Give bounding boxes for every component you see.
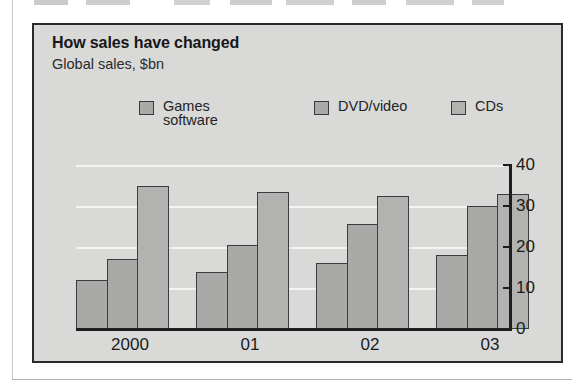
chart-title: How sales have changed	[52, 34, 239, 52]
legend-swatch-icon	[139, 101, 154, 115]
legend-item[interactable]: Games software	[139, 99, 218, 127]
chart-legend: Games softwareDVD/videoCDs	[139, 99, 539, 143]
bar[interactable]	[257, 192, 289, 329]
chart-subtitle: Global sales, $bn	[52, 56, 164, 72]
x-axis-tick-label: 02	[316, 336, 424, 353]
y-axis-tick-label: 30	[516, 197, 535, 214]
bar[interactable]	[76, 280, 108, 329]
y-axis-tick	[503, 328, 512, 330]
x-axis-line	[76, 328, 512, 331]
chart-panel: How sales have changed Global sales, $bn…	[32, 23, 563, 363]
y-axis-tick-label: 10	[516, 279, 535, 296]
y-axis-line	[509, 165, 512, 331]
bar-group	[76, 165, 184, 329]
legend-item[interactable]: DVD/video	[314, 99, 407, 115]
bar-group	[196, 165, 304, 329]
page-horizontal-rule	[12, 379, 572, 380]
x-axis-tick-label: 01	[196, 336, 304, 353]
y-axis-tick-label: 40	[516, 156, 535, 173]
y-axis-tick	[503, 164, 512, 166]
bar[interactable]	[467, 206, 499, 329]
bar[interactable]	[196, 272, 228, 329]
legend-label: CDs	[475, 99, 503, 113]
bar[interactable]	[436, 255, 468, 329]
legend-swatch-icon	[314, 101, 329, 115]
bar-group	[316, 165, 424, 329]
bar[interactable]	[347, 224, 379, 329]
bars-layer	[76, 165, 504, 329]
y-axis-tick-label: 20	[516, 238, 535, 255]
y-axis-tick-label: 0	[516, 320, 525, 337]
plot-area	[76, 165, 504, 329]
page-edge-line	[12, 0, 13, 380]
bar[interactable]	[316, 263, 348, 329]
y-axis-tick	[503, 287, 512, 289]
bar[interactable]	[107, 259, 139, 329]
cropped-text-line-above	[34, 0, 504, 5]
legend-label: DVD/video	[338, 99, 407, 113]
bar[interactable]	[377, 196, 409, 329]
legend-item[interactable]: CDs	[451, 99, 503, 115]
bar[interactable]	[227, 245, 259, 329]
y-axis-tick	[503, 205, 512, 207]
y-axis-tick	[503, 246, 512, 248]
legend-label: Games software	[163, 99, 218, 127]
x-axis-tick-label: 2000	[76, 336, 184, 353]
x-axis-tick-label: 03	[436, 336, 544, 353]
bar[interactable]	[137, 186, 169, 330]
legend-swatch-icon	[451, 101, 466, 115]
